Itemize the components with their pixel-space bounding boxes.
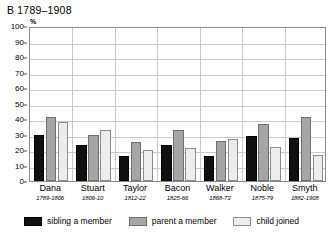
y-axis-tick-mark (24, 89, 27, 90)
y-axis-tick-label: 20 (15, 147, 24, 155)
y-axis-tick-label: 90 (15, 39, 24, 47)
bars-layer (30, 28, 325, 181)
x-axis-category-name: Stuart (71, 183, 113, 194)
x-axis-category-name: Taylor (114, 183, 156, 194)
y-axis-tick-mark (24, 120, 27, 121)
bar (76, 145, 87, 181)
y-axis-tick-label: 30 (15, 132, 24, 140)
legend-entry: child joined (233, 216, 299, 226)
y-axis-tick-mark (24, 42, 27, 43)
bar (289, 138, 300, 181)
legend-label: sibling a member (47, 216, 112, 226)
y-axis-tick-label: 40 (15, 116, 24, 124)
x-axis-group-label: Noble1875-79 (241, 183, 283, 203)
legend-entry: parent a member (129, 216, 217, 226)
bar-group (157, 28, 199, 181)
legend-swatch (233, 217, 251, 226)
y-axis-tick-mark (24, 135, 27, 136)
bar (173, 130, 184, 181)
legend-swatch (129, 217, 147, 226)
legend-swatch (24, 217, 42, 226)
x-axis-category-years: 1806-10 (71, 194, 113, 203)
y-axis-tick-mark (24, 166, 27, 167)
bar-group (242, 28, 284, 181)
y-axis-tick-label: 10 (15, 163, 24, 171)
bar-group (115, 28, 157, 181)
bar (313, 155, 324, 181)
legend-label: child joined (256, 216, 299, 226)
x-axis-group-label: Walker1868-73 (199, 183, 241, 203)
x-axis-group-label: Smyth1882-1908 (284, 183, 326, 203)
bar-group (30, 28, 72, 181)
x-axis-category-name: Noble (241, 183, 283, 194)
bar-group (72, 28, 114, 181)
x-axis-group-label: Bacon1825-66 (156, 183, 198, 203)
y-axis-tick-mark (24, 73, 27, 74)
x-axis-category-years: 1789-1806 (29, 194, 71, 203)
x-axis-group-label: Taylor1812-22 (114, 183, 156, 203)
bar (270, 147, 281, 181)
bar (161, 145, 172, 181)
bar-group (285, 28, 327, 181)
x-axis-category-years: 1825-66 (156, 194, 198, 203)
y-axis-tick-mark (24, 182, 27, 183)
y-axis: 0102030405060708090100 (0, 27, 27, 182)
bar (246, 136, 257, 181)
bar (46, 117, 57, 181)
x-axis-category-name: Bacon (156, 183, 198, 194)
y-axis-tick-mark (24, 58, 27, 59)
bar (185, 148, 196, 181)
plot-area (29, 27, 326, 182)
bar (216, 141, 227, 181)
y-axis-tick-label: 70 (15, 70, 24, 78)
bar (100, 130, 111, 181)
x-axis-category-name: Smyth (284, 183, 326, 194)
chart-title: B 1789–1908 (7, 4, 72, 16)
y-axis-tick-label: 100 (11, 23, 24, 31)
y-axis-tick-label: 50 (15, 101, 24, 109)
y-axis-tick-mark (24, 151, 27, 152)
bar (58, 122, 69, 181)
y-axis-tick-mark (24, 27, 27, 28)
bar (143, 150, 154, 181)
bar-group (200, 28, 242, 181)
x-axis: Dana1789-1806Stuart1806-10Taylor1812-22B… (29, 183, 326, 209)
bar (301, 117, 312, 181)
x-axis-group-label: Stuart1806-10 (71, 183, 113, 203)
legend-label: parent a member (152, 216, 217, 226)
x-axis-category-name: Dana (29, 183, 71, 194)
y-axis-unit-label: % (30, 18, 36, 25)
bar (204, 156, 215, 181)
bar (88, 135, 99, 182)
x-axis-category-name: Walker (199, 183, 241, 194)
bar (131, 142, 142, 181)
x-axis-group-label: Dana1789-1806 (29, 183, 71, 203)
bar (258, 124, 269, 181)
bar (34, 135, 45, 182)
chart-legend: sibling a memberparent a memberchild joi… (24, 214, 324, 228)
y-axis-tick-label: 80 (15, 54, 24, 62)
bar (228, 139, 239, 181)
bar (119, 156, 130, 181)
y-axis-tick-mark (24, 104, 27, 105)
y-axis-tick-label: 60 (15, 85, 24, 93)
x-axis-category-years: 1882-1908 (284, 194, 326, 203)
x-axis-category-years: 1875-79 (241, 194, 283, 203)
legend-entry: sibling a member (24, 216, 112, 226)
chart-figure: B 1789–1908 % 0102030405060708090100 Dan… (0, 0, 335, 237)
x-axis-category-years: 1868-73 (199, 194, 241, 203)
x-axis-category-years: 1812-22 (114, 194, 156, 203)
